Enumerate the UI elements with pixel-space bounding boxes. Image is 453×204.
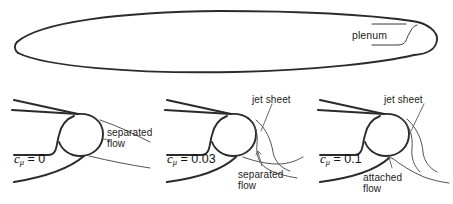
p3-jet-outer-shear — [407, 119, 437, 172]
cmu-value-3: 0.1 — [344, 152, 361, 166]
p3-jet-sheet — [400, 117, 420, 172]
separated-flow-label-panel-1: separatedflow — [107, 127, 152, 149]
airfoil-trailing-edge-round — [412, 21, 437, 55]
cmu-value-2: 0.03 — [191, 152, 215, 166]
jet-sheet-label-panel-3: jet sheet — [384, 94, 423, 105]
separated-flow-line2-p1: flow — [107, 138, 125, 149]
panel-cmu-01-group — [318, 100, 449, 183]
p2-plenum-duct-wall — [167, 116, 227, 155]
cmu-label-panel-1: cμ = 0 — [14, 151, 45, 167]
p2-jet-sheet-leader — [261, 104, 272, 131]
cmu-equals-1: = — [28, 152, 35, 166]
cmu-equals-2: = — [181, 152, 188, 166]
airfoil-leading-edge — [15, 42, 18, 53]
full-airfoil-group — [15, 11, 437, 72]
figure-root: plenum cμ = 0 separatedflow cμ = 0.03 je… — [0, 0, 453, 204]
p1-separated-shear-lower — [89, 156, 150, 168]
p2-separated-shear-lower — [243, 157, 303, 164]
attached-flow-label-panel-3: attachedflow — [363, 172, 402, 194]
separated-flow-line1-p2: separated — [238, 169, 283, 180]
separated-flow-label-panel-2: separatedflow — [238, 169, 283, 191]
separated-flow-line1-p1: separated — [107, 127, 152, 138]
p1-plenum-duct-wall — [14, 116, 74, 155]
attached-flow-line2-p3: flow — [363, 183, 381, 194]
attached-flow-line1-p3: attached — [363, 172, 402, 183]
separated-flow-line2-p2: flow — [238, 180, 256, 191]
p3-plenum-duct-wall — [320, 116, 380, 155]
cmu-equals-3: = — [334, 152, 341, 166]
airfoil-lower-surface — [18, 53, 414, 72]
cmu-label-panel-2: cμ = 0.03 — [167, 151, 216, 167]
p3-jet-sheet-leader — [411, 104, 424, 131]
cmu-value-1: 0 — [38, 152, 45, 166]
jet-sheet-label-panel-2: jet sheet — [252, 94, 291, 105]
cmu-label-panel-3: cμ = 0.1 — [320, 151, 362, 167]
plenum-label: plenum — [352, 30, 387, 41]
